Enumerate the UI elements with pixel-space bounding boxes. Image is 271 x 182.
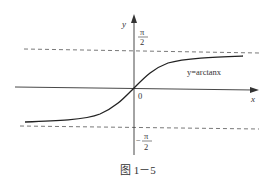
arctan-figure: y π 2 y=arctanx 0 x − π 2 图 1－5 — [0, 0, 271, 182]
upper-asymptote-denominator: 2 — [140, 37, 144, 47]
x-axis-label: x — [250, 94, 255, 104]
x-axis-arrow-icon — [250, 87, 259, 93]
lower-asymptote-denominator: 2 — [144, 142, 148, 152]
origin-label: 0 — [138, 91, 142, 101]
figure-caption: 图 1－5 — [120, 164, 156, 176]
y-axis-label: y — [121, 19, 126, 29]
lower-asymptote-sign: − — [136, 135, 141, 145]
upper-asymptote-numerator: π — [140, 27, 145, 37]
upper-asymptote-line — [24, 49, 259, 53]
y-axis-arrow-icon — [131, 14, 137, 23]
lower-asymptote-line — [20, 126, 259, 129]
lower-asymptote-numerator: π — [144, 131, 149, 141]
curve-label: y=arctanx — [187, 67, 222, 77]
